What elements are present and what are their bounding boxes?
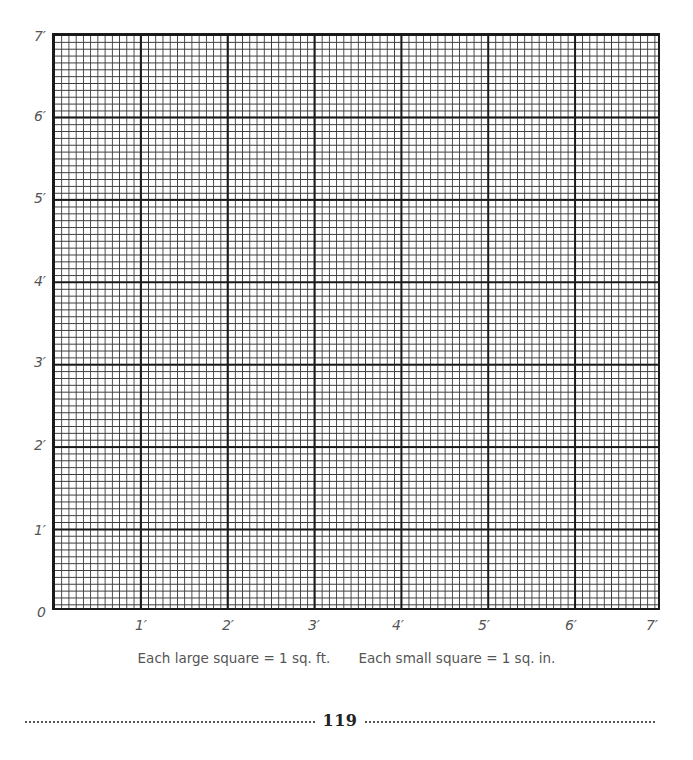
dotted-rule-right <box>365 721 655 723</box>
y-axis-label-1: 1′ <box>22 522 46 538</box>
x-axis-label-4: 4′ <box>392 617 404 633</box>
y-axis-label-7: 7′ <box>22 28 46 44</box>
y-axis-label-3: 3′ <box>22 354 46 370</box>
x-axis-label-6: 6′ <box>565 617 577 633</box>
y-axis-label-5: 5′ <box>22 190 46 206</box>
scale-caption: Each large square = 1 sq. ft. Each small… <box>0 650 693 666</box>
page-number: 119 <box>315 711 366 730</box>
large-square-note: Each large square = 1 sq. ft. <box>138 650 331 666</box>
small-square-note: Each small square = 1 sq. in. <box>359 650 556 666</box>
x-axis-label-2: 2′ <box>222 617 234 633</box>
dotted-rule-left <box>25 721 315 723</box>
y-axis-label-0: 0 <box>22 604 46 620</box>
y-axis-label-6: 6′ <box>22 108 46 124</box>
x-axis-label-5: 5′ <box>478 617 490 633</box>
y-axis-label-2: 2′ <box>22 437 46 453</box>
y-axis-label-4: 4′ <box>22 273 46 289</box>
x-axis-label-3: 3′ <box>308 617 320 633</box>
x-axis-label-7: 7′ <box>646 617 658 633</box>
graph-paper-grid <box>52 33 660 610</box>
x-axis-label-1: 1′ <box>135 617 147 633</box>
page-footer: 119 <box>25 710 655 730</box>
